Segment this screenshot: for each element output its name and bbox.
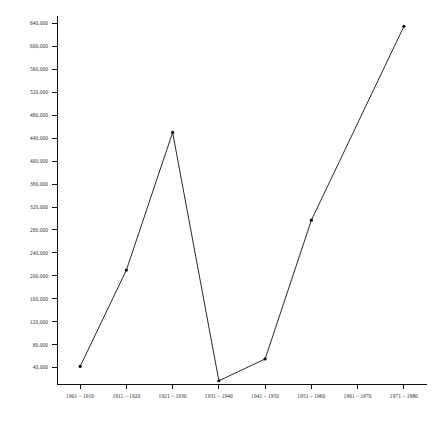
x-tick-label: 1961 – 1970 — [344, 393, 372, 399]
data-point-marker — [310, 219, 313, 222]
line-chart-figure: 40,00080,000120,000160,000200,000240,000… — [0, 0, 434, 429]
y-tick-label: 160,000 — [30, 296, 48, 302]
y-tick-label: 40,000 — [33, 364, 48, 370]
data-point-marker — [79, 365, 82, 368]
y-tick-label: 200,000 — [30, 273, 48, 279]
y-tick-label: 120,000 — [30, 319, 48, 325]
y-tick-label: 560,000 — [30, 66, 48, 72]
x-tick-label: 1941 – 1950 — [251, 393, 279, 399]
plot-background — [0, 0, 434, 429]
y-tick-label: 320,000 — [30, 204, 48, 210]
x-tick-label: 1931 – 1940 — [205, 393, 233, 399]
y-tick-label: 480,000 — [30, 112, 48, 118]
y-tick-label: 440,000 — [30, 135, 48, 141]
y-tick-label: 280,000 — [30, 227, 48, 233]
y-tick-label: 240,000 — [30, 250, 48, 256]
data-point-marker — [217, 379, 220, 382]
data-point-marker — [264, 357, 267, 360]
y-tick-label: 80,000 — [33, 342, 48, 348]
y-tick-label: 360,000 — [30, 181, 48, 187]
y-tick-label: 600,000 — [30, 43, 48, 49]
y-tick-label: 400,000 — [30, 158, 48, 164]
x-tick-label: 1951 – 1960 — [297, 393, 325, 399]
y-tick-label: 640,000 — [30, 20, 48, 26]
y-tick-label: 520,000 — [30, 89, 48, 95]
chart-canvas: 40,00080,000120,000160,000200,000240,000… — [0, 0, 434, 429]
x-tick-label: 1901 – 1910 — [66, 393, 94, 399]
x-tick-label: 1911 – 1920 — [112, 393, 140, 399]
data-point-marker — [402, 25, 405, 28]
data-point-marker — [171, 131, 174, 134]
x-tick-label: 1971 – 1980 — [390, 393, 418, 399]
data-point-marker — [125, 268, 128, 271]
x-tick-label: 1921 – 1930 — [159, 393, 187, 399]
